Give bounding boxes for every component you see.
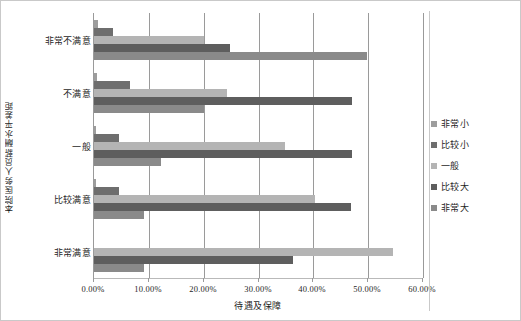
x-axis-tickmark <box>258 278 259 282</box>
x-axis-tickmark <box>93 278 94 282</box>
x-axis-tick-label: 20.00% <box>189 284 216 294</box>
bar <box>94 256 293 264</box>
bar <box>94 97 352 105</box>
x-axis-tick-label: 10.00% <box>134 284 161 294</box>
bar <box>94 142 285 150</box>
legend-label: 非常小 <box>441 117 469 130</box>
y-axis-tick-label: 非常满意 <box>21 245 91 258</box>
bar <box>94 73 97 81</box>
bar <box>94 203 351 211</box>
x-axis-tickmark <box>148 278 149 282</box>
bar <box>94 211 144 219</box>
legend-swatch-icon <box>431 163 437 169</box>
legend-item[interactable]: 一般 <box>431 155 517 176</box>
x-axis-tickmark <box>367 278 368 282</box>
bar <box>94 187 119 195</box>
x-axis-tick-label: 60.00% <box>408 284 435 294</box>
bar <box>94 28 113 36</box>
x-axis-tickmark <box>312 278 313 282</box>
bar <box>94 248 393 256</box>
y-axis-tick-labels: 非常不满意不满意一般比较满意非常满意 <box>17 1 91 321</box>
x-axis-tickmark <box>203 278 204 282</box>
legend-label: 非常大 <box>441 201 469 214</box>
x-axis-title: 待遇及保障 <box>93 299 423 312</box>
x-axis-tickmark <box>422 278 423 282</box>
bar <box>94 36 204 44</box>
gridline <box>423 13 424 278</box>
legend-item[interactable]: 比较大 <box>431 176 517 197</box>
gridline <box>368 13 369 278</box>
legend-label: 比较大 <box>441 180 469 193</box>
legend-item[interactable]: 非常小 <box>431 113 517 134</box>
chart-legend: 非常小比较小一般比较大非常大 <box>431 113 517 218</box>
x-axis-tick-label: 0.00% <box>82 284 105 294</box>
legend-label: 比较小 <box>441 138 469 151</box>
x-axis-tick-label: 30.00% <box>244 284 271 294</box>
bar <box>94 20 98 28</box>
legend-label: 一般 <box>441 159 460 172</box>
bar <box>94 134 119 142</box>
y-axis-tick-label: 不满意 <box>21 86 91 99</box>
y-axis-tick-label: 一般 <box>21 139 91 152</box>
bar <box>94 195 315 203</box>
legend-item[interactable]: 比较小 <box>431 134 517 155</box>
bar <box>94 81 130 89</box>
chart-figure: 本院医务人员薪酬水平差距 非常不满意不满意一般比较满意非常满意 0.00%10.… <box>0 0 521 321</box>
legend-swatch-icon <box>431 142 437 148</box>
x-axis-tick-label: 40.00% <box>298 284 325 294</box>
legend-swatch-icon <box>431 121 437 127</box>
legend-item[interactable]: 非常大 <box>431 197 517 218</box>
bar <box>94 44 230 52</box>
y-axis-tick-label: 非常不满意 <box>21 33 91 46</box>
bar <box>94 179 96 187</box>
bar <box>94 52 367 60</box>
bar <box>94 89 227 97</box>
y-axis-tick-label: 比较满意 <box>21 192 91 205</box>
x-axis-tick-label: 50.00% <box>353 284 380 294</box>
legend-swatch-icon <box>431 205 437 211</box>
plot-area <box>93 13 422 278</box>
bar <box>94 158 161 166</box>
bar <box>94 105 204 113</box>
bar <box>94 264 144 272</box>
legend-divider <box>429 11 430 311</box>
legend-swatch-icon <box>431 184 437 190</box>
bar <box>94 126 96 134</box>
bar <box>94 150 352 158</box>
y-axis-title: 本院医务人员薪酬水平差距 <box>3 49 17 264</box>
